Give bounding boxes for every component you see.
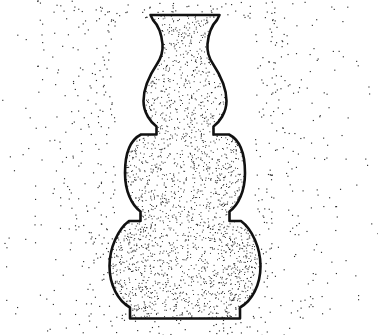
illustration-canvas [0, 0, 378, 335]
vase-illustration [0, 0, 378, 335]
vase-body-fill [110, 15, 261, 319]
